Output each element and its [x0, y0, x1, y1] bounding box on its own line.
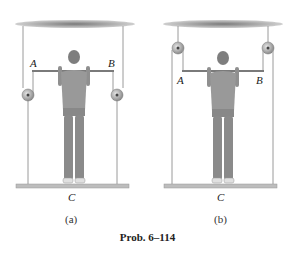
platform — [164, 184, 277, 188]
person-figure — [58, 50, 90, 183]
ceiling — [15, 20, 135, 28]
label-point-c: C — [68, 191, 75, 203]
panel-b: A B C (b) — [147, 0, 295, 215]
pulley-system-b — [147, 0, 295, 215]
figure-caption: Prob. 6–114 — [0, 231, 295, 243]
sublabel-b: (b) — [214, 213, 227, 225]
label-point-c: C — [217, 191, 224, 203]
ceiling — [163, 20, 283, 28]
label-point-a: A — [30, 57, 37, 69]
pulley-system-a — [0, 0, 148, 215]
platform — [16, 184, 129, 188]
label-point-b: B — [108, 57, 115, 69]
sublabel-a: (a) — [65, 213, 77, 225]
label-point-a: A — [177, 74, 184, 86]
label-point-b: B — [256, 74, 263, 86]
panel-a: A B C (a) — [0, 0, 148, 215]
